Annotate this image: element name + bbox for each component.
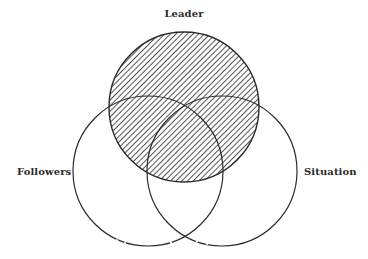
venn-svg xyxy=(0,0,368,259)
bottom-dash-artifacts xyxy=(116,240,252,244)
venn-diagram: Leader Followers Situation xyxy=(0,0,368,259)
leader-label: Leader xyxy=(164,8,203,19)
followers-label: Followers xyxy=(17,166,71,177)
situation-label: Situation xyxy=(304,166,357,177)
